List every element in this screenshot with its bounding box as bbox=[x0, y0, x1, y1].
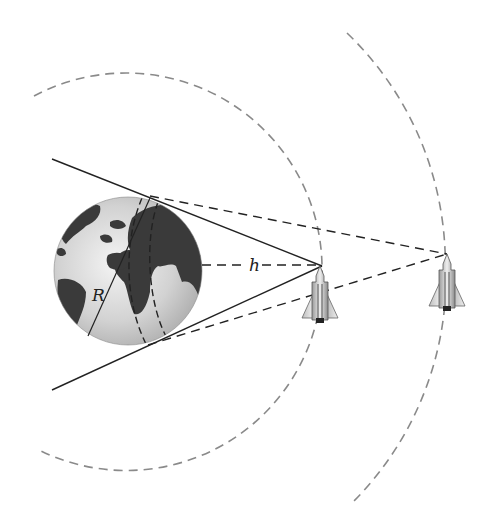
outer-orbit bbox=[347, 33, 446, 502]
altitude-label: h bbox=[249, 255, 260, 275]
orbit-diagram: R h bbox=[0, 0, 497, 518]
satellite-low bbox=[302, 266, 338, 323]
satellite-high bbox=[429, 254, 465, 311]
earth-globe bbox=[54, 197, 202, 345]
radius-label: R bbox=[91, 285, 105, 305]
